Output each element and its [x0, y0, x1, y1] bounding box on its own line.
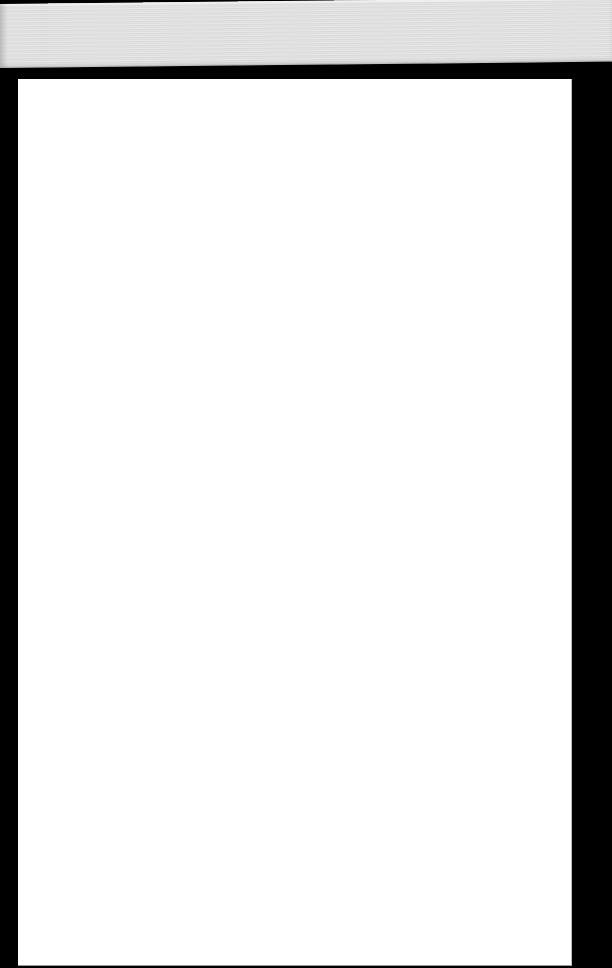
blank-page	[18, 79, 572, 966]
book-page-edges	[0, 0, 612, 68]
page-content	[18, 79, 571, 965]
